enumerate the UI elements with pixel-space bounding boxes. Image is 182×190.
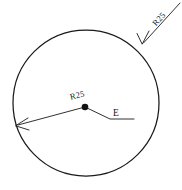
inner-radius-label: R25 xyxy=(69,88,86,101)
outer-radius-label: R25 xyxy=(150,10,167,28)
circle-outline xyxy=(13,30,159,176)
outer-radius-arrowhead xyxy=(137,31,149,44)
inner-radius-dimension-line xyxy=(18,107,85,125)
technical-drawing-canvas: R25 E R25 xyxy=(0,0,182,190)
point-e-leader-line xyxy=(85,107,134,119)
point-e-label: E xyxy=(113,108,119,118)
drawing-svg: R25 E R25 xyxy=(0,0,182,190)
